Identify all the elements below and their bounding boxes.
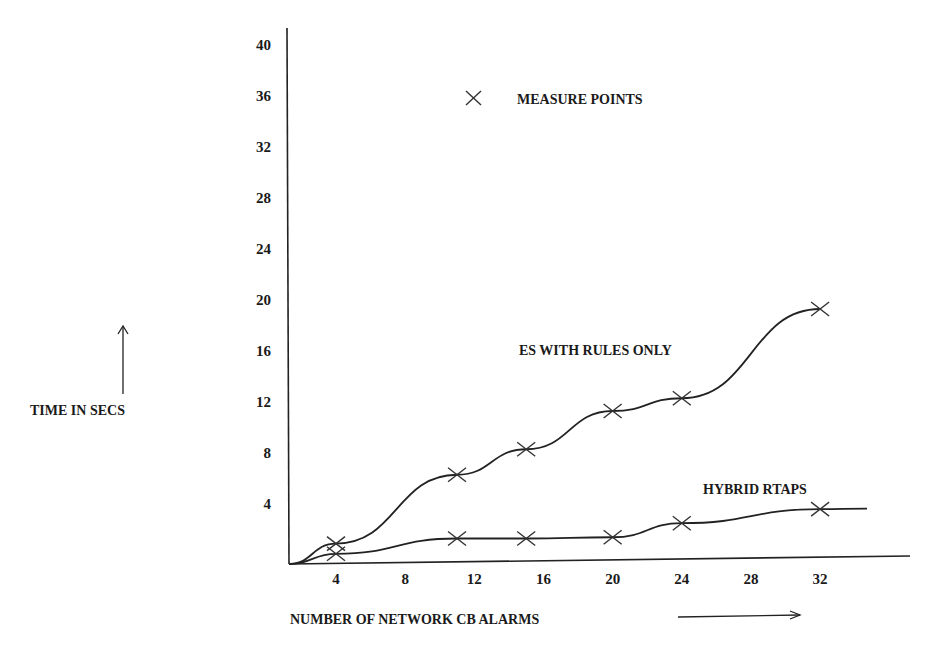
- x-tick-label: 28: [743, 571, 758, 587]
- x-tick-label: 16: [536, 571, 552, 587]
- legend: MEASURE POINTS: [466, 91, 643, 107]
- cross-marker-icon: [466, 91, 481, 105]
- y-tick-label: 8: [264, 445, 272, 461]
- x-tick-label: 4: [332, 571, 340, 587]
- y-tick-label: 16: [256, 343, 272, 359]
- line-chart: 481216202428323640 48121620242832 MEASUR…: [0, 0, 937, 660]
- y-axis-label: TIME IN SECS: [30, 403, 125, 418]
- y-tick-label: 24: [256, 241, 272, 257]
- series-lines: [289, 302, 867, 564]
- x-axis-line: [289, 556, 910, 564]
- x-axis-label: NUMBER OF NETWORK CB ALARMS: [290, 612, 539, 627]
- y-tick-label: 36: [256, 88, 272, 104]
- x-tick-labels: 48121620242832: [332, 571, 827, 587]
- y-axis-arrow-icon: [118, 326, 128, 394]
- x-tick-label: 24: [674, 571, 690, 587]
- y-tick-label: 32: [256, 139, 271, 155]
- legend-label: MEASURE POINTS: [517, 92, 643, 107]
- y-tick-label: 28: [256, 190, 271, 206]
- series-label-hybrid: HYBRID RTAPS: [703, 482, 807, 497]
- x-tick-label: 12: [467, 571, 482, 587]
- y-tick-label: 4: [264, 496, 272, 512]
- y-tick-label: 20: [256, 292, 271, 308]
- y-tick-label: 40: [256, 37, 271, 53]
- x-tick-label: 8: [401, 571, 409, 587]
- x-axis-arrow-icon: [678, 611, 800, 619]
- y-tick-labels: 481216202428323640: [256, 37, 272, 512]
- series-label-es: ES WITH RULES ONLY: [519, 343, 672, 358]
- y-axis-line: [287, 28, 289, 564]
- y-tick-label: 12: [256, 394, 271, 410]
- series-line: [289, 509, 867, 564]
- x-tick-label: 20: [605, 571, 620, 587]
- axes: [287, 28, 910, 564]
- x-tick-label: 32: [813, 571, 828, 587]
